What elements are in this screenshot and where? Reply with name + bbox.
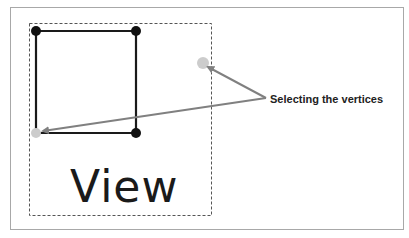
view-label: View	[70, 165, 178, 209]
vertex-top-left[interactable]	[31, 26, 41, 36]
vertex-floating-selected[interactable]	[197, 57, 209, 69]
vertex-bottom-right[interactable]	[131, 128, 141, 138]
square-shape	[36, 31, 136, 133]
vertex-top-right[interactable]	[131, 26, 141, 36]
vertex-bottom-left-selected[interactable]	[31, 128, 41, 138]
diagram-canvas	[0, 0, 409, 238]
arrow-to-bottom-left-vertex	[43, 98, 266, 131]
arrow-to-floating-vertex	[208, 67, 266, 98]
annotation-label: Selecting the vertices	[270, 93, 383, 105]
